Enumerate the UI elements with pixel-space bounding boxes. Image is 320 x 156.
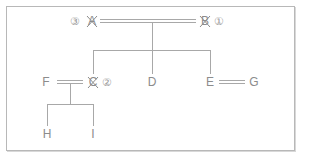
order-marker-a: ③	[70, 16, 80, 27]
node-d: D	[148, 76, 157, 88]
node-f: F	[42, 76, 49, 88]
node-e: E	[206, 76, 214, 88]
marriage-line-a-b	[100, 20, 196, 23]
node-a: A	[88, 15, 96, 27]
node-i: I	[91, 128, 94, 140]
order-marker-b: ①	[214, 16, 224, 27]
node-h: H	[43, 128, 52, 140]
marriage-line-e-g	[219, 81, 245, 84]
node-g: G	[249, 76, 258, 88]
order-marker-c: ②	[102, 77, 112, 88]
descent-line-f-c	[48, 84, 94, 126]
marriage-line-f-c	[57, 81, 83, 84]
node-c: C	[89, 76, 98, 88]
descent-line-a-b	[94, 23, 211, 74]
node-b: B	[201, 15, 209, 27]
